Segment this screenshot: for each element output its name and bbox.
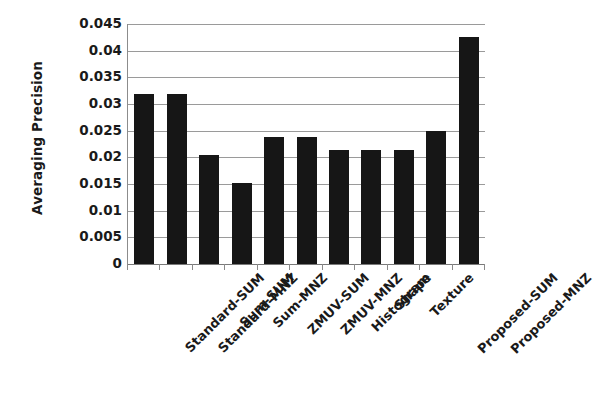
bar	[426, 131, 446, 264]
y-axis-tick-label: 0.025	[58, 124, 122, 138]
y-axis-tick-label: 0.03	[58, 97, 122, 111]
y-axis-tick-labels: 00.0050.010.0150.020.0250.030.0350.040.0…	[58, 24, 122, 264]
bars-group	[128, 24, 485, 264]
bar	[329, 150, 349, 264]
bar	[264, 137, 284, 264]
y-axis-title: Averaging Precision	[29, 38, 45, 238]
bar	[167, 94, 187, 264]
bar	[394, 150, 414, 264]
x-axis-tick-labels: Standard-SUMStandard-MNZSum-SUMSum-MNZZM…	[127, 270, 507, 400]
y-axis-tick-label: 0.04	[58, 44, 122, 58]
bar	[134, 94, 154, 264]
plot-area	[127, 24, 485, 264]
bar	[199, 155, 219, 264]
bar	[459, 37, 479, 264]
y-axis-tick-label: 0.01	[58, 204, 122, 218]
bar	[232, 183, 252, 264]
y-axis-tick-label: 0.045	[58, 17, 122, 31]
y-axis-tick-label: 0.005	[58, 231, 122, 245]
y-axis-tick-label: 0	[58, 257, 122, 271]
y-axis-tick-label: 0.035	[58, 71, 122, 85]
bar	[297, 137, 317, 264]
bar	[361, 150, 381, 264]
y-axis-tick-label: 0.015	[58, 177, 122, 191]
x-axis-tick-label: Texture	[427, 270, 477, 320]
y-axis-tick-label: 0.02	[58, 151, 122, 165]
